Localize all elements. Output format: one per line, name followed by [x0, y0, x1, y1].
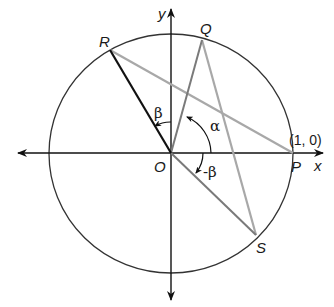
segment-RP — [110, 50, 293, 153]
segment-QS — [202, 40, 256, 235]
segment-OR — [110, 50, 171, 153]
point-label-Q: Q — [200, 20, 212, 37]
segment-OQ — [171, 40, 202, 153]
point-label-P: P — [291, 158, 301, 175]
angle-arc-alpha — [187, 117, 211, 153]
angle-label-beta: β — [154, 104, 163, 122]
angle-label-neg-beta: -β — [203, 163, 217, 181]
y-axis-label: y — [157, 5, 167, 22]
angle-arc-neg-beta — [196, 153, 203, 173]
unit-circle-diagram: y x Q R O P S (1, 0) β α -β — [0, 0, 334, 307]
point-label-S: S — [256, 239, 266, 256]
point-P-coordinate-label: (1, 0) — [289, 132, 322, 148]
x-axis-label: x — [313, 157, 322, 174]
angle-label-alpha: α — [210, 117, 220, 135]
point-label-R: R — [99, 33, 110, 50]
point-label-O: O — [154, 158, 166, 175]
angle-arc-beta — [155, 122, 171, 126]
